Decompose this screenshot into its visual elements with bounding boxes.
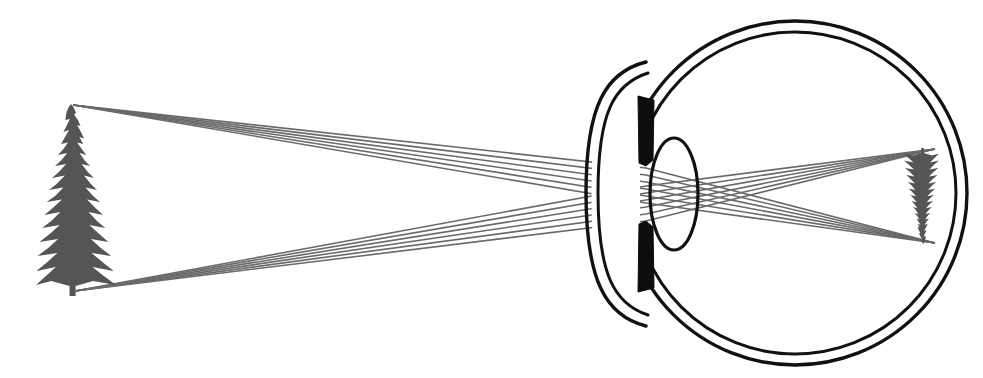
diagram-background: [0, 0, 983, 378]
iris-lower-bar: [638, 221, 654, 292]
iris-upper-bar: [638, 96, 654, 166]
optics-diagram-canvas: Ray diagram: image formation by the huma…: [0, 0, 983, 378]
eye-ray-diagram-svg: Ray diagram: image formation by the huma…: [0, 0, 983, 378]
